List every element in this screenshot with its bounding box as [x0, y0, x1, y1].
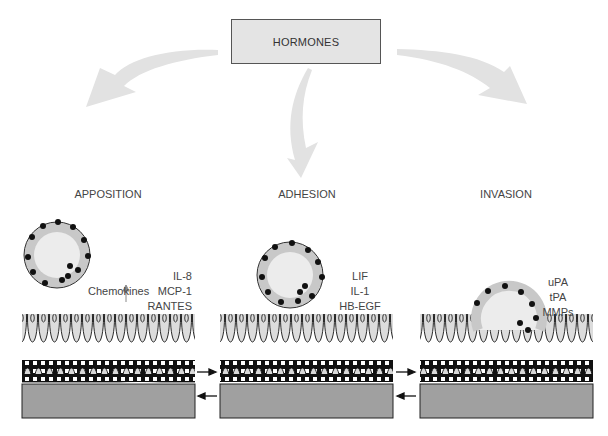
chemokines-label: Chemokines	[88, 284, 148, 299]
exchange-arrows-1	[197, 369, 217, 399]
factor-il1: IL-1	[335, 284, 385, 299]
factor-mmps: MMPs	[538, 305, 578, 320]
stage-label-adhesion: ADHESION	[247, 188, 367, 200]
factor-rantes: RANTES	[140, 299, 192, 314]
panel-apposition	[22, 314, 195, 418]
blastocyst-adhesion	[257, 240, 325, 308]
factor-mcp1: MCP-1	[150, 284, 192, 299]
hormones-label: HORMONES	[273, 36, 339, 48]
factor-lif: LIF	[335, 269, 385, 284]
blastocyst-invasion	[474, 283, 542, 333]
hormones-box: HORMONES	[231, 19, 381, 64]
exchange-arrows-2	[396, 369, 416, 399]
factor-hbegf: HB-EGF	[335, 299, 385, 314]
factor-il8: IL-8	[150, 269, 192, 284]
factor-upa: uPA	[538, 275, 578, 290]
blastocyst-apposition	[24, 219, 91, 288]
panel-adhesion	[220, 314, 393, 418]
arrow-to-apposition	[86, 50, 218, 107]
arrow-to-invasion	[397, 49, 527, 104]
stage-label-apposition: APPOSITION	[48, 188, 168, 200]
hormone-arrows	[0, 0, 608, 436]
factor-tpa: tPA	[538, 290, 578, 305]
stage-label-invasion: INVASION	[446, 188, 566, 200]
arrow-to-adhesion	[287, 68, 318, 178]
